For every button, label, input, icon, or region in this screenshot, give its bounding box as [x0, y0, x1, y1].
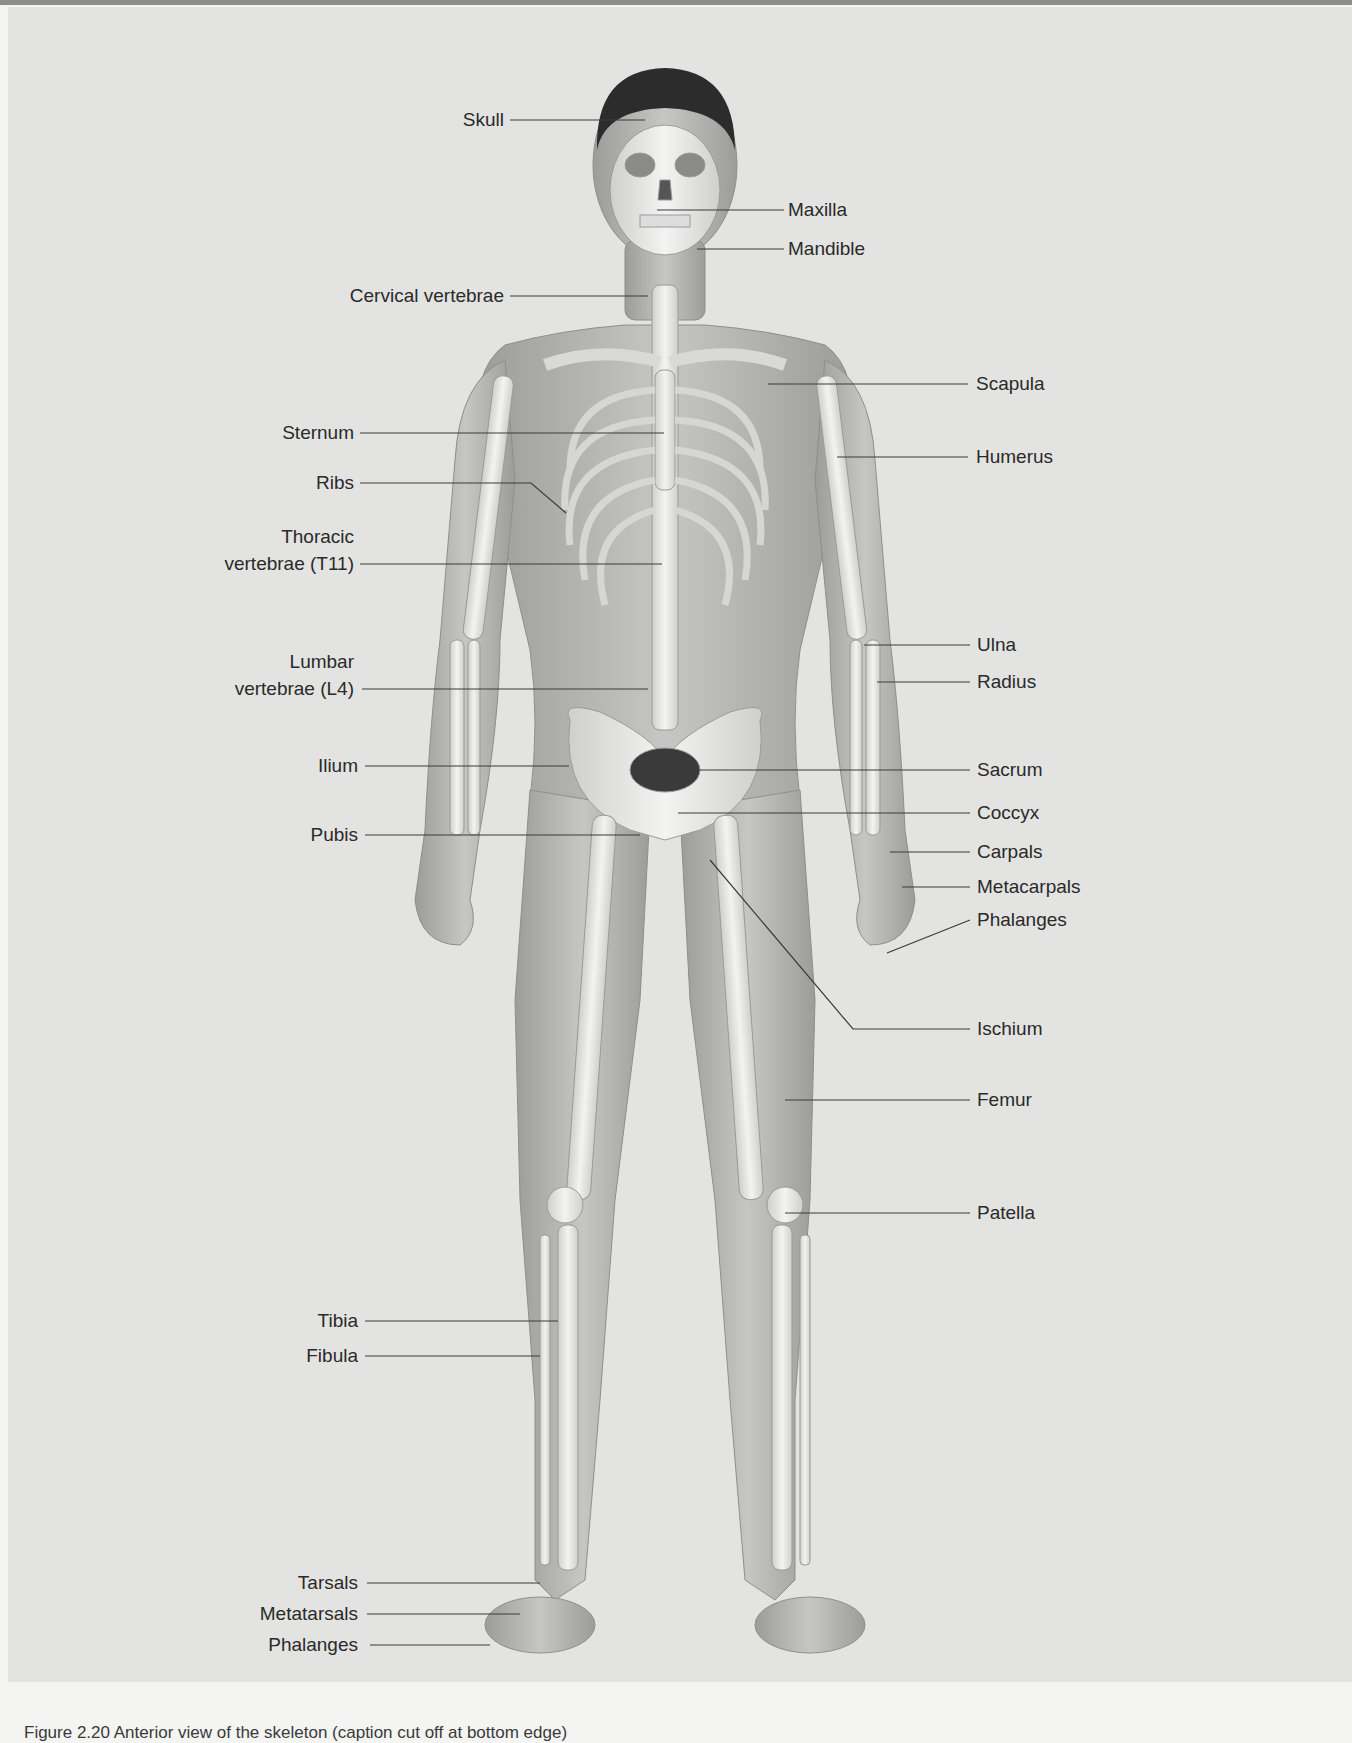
label-metatarsals: Metatarsals — [260, 1602, 358, 1626]
label-thoracic-line1: Thoracic — [281, 525, 354, 549]
figure-caption-clipped: Figure 2.20 Anterior view of the skeleto… — [24, 1723, 567, 1743]
label-sternum: Sternum — [282, 421, 354, 445]
label-phalanges-hand: Phalanges — [977, 908, 1067, 932]
label-sacrum: Sacrum — [977, 758, 1042, 782]
label-thoracic-line2: vertebrae (T11) — [224, 552, 354, 576]
label-scapula: Scapula — [976, 372, 1045, 396]
label-lumbar-line1: Lumbar — [290, 650, 354, 674]
label-radius: Radius — [977, 670, 1036, 694]
label-femur: Femur — [977, 1088, 1032, 1112]
label-ribs: Ribs — [316, 471, 354, 495]
label-carpals: Carpals — [977, 840, 1042, 864]
label-skull: Skull — [463, 108, 504, 132]
label-cervical-vertebrae: Cervical vertebrae — [350, 284, 504, 308]
label-lumbar-line2: vertebrae (L4) — [235, 677, 354, 701]
label-fibula: Fibula — [306, 1344, 358, 1368]
label-ischium: Ischium — [977, 1017, 1042, 1041]
label-mandible: Mandible — [788, 237, 865, 261]
label-tibia: Tibia — [318, 1309, 358, 1333]
label-tarsals: Tarsals — [298, 1571, 358, 1595]
label-patella: Patella — [977, 1201, 1035, 1225]
label-humerus: Humerus — [976, 445, 1053, 469]
label-ilium: Ilium — [318, 754, 358, 778]
label-metacarpals: Metacarpals — [977, 875, 1081, 899]
label-maxilla: Maxilla — [788, 198, 847, 222]
label-pubis: Pubis — [310, 823, 358, 847]
label-ulna: Ulna — [977, 633, 1016, 657]
label-coccyx: Coccyx — [977, 801, 1039, 825]
label-phalanges-foot: Phalanges — [268, 1633, 358, 1657]
skeleton-bones — [450, 125, 880, 1570]
